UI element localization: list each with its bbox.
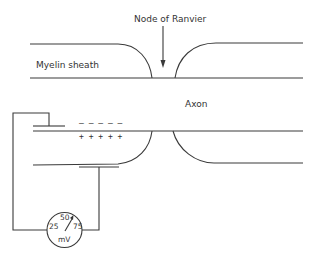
- wire-right: [82, 167, 99, 230]
- positive-charges: + + + + +: [79, 132, 123, 141]
- myelin-sheath-label: Myelin sheath: [36, 60, 99, 70]
- unit-mv: mV: [58, 235, 71, 244]
- scale-75: 75: [73, 222, 83, 231]
- lower-sheath-right: [173, 131, 303, 163]
- node-arrow-head: [161, 60, 166, 68]
- voltmeter: 25 50 75 mV: [47, 213, 83, 248]
- negative-charges: – – – – –: [79, 119, 123, 128]
- node-of-ranvier-diagram: Node of Ranvier Myelin sheath Axon – – –…: [0, 0, 316, 262]
- axon-label: Axon: [185, 99, 207, 109]
- scale-50: 50: [60, 213, 70, 222]
- scale-25: 25: [49, 222, 59, 231]
- node-of-ranvier-label: Node of Ranvier: [134, 14, 207, 24]
- upper-sheath-right: [175, 43, 303, 78]
